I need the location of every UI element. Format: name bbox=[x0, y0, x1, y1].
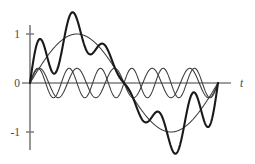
plot-area: 10-1t bbox=[0, 0, 255, 164]
y-tick-label--1: -1 bbox=[10, 126, 20, 138]
y-tick-label-0: 0 bbox=[14, 77, 20, 89]
fourier-series-figure: 10-1t bbox=[0, 0, 255, 164]
y-tick-label-1: 1 bbox=[14, 28, 20, 40]
x-axis-label-t: t bbox=[240, 77, 244, 89]
